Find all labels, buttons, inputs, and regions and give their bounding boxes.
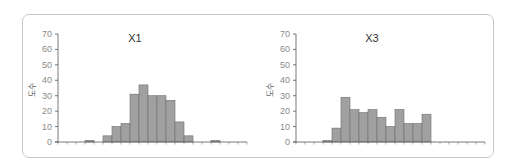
histogram-bar — [166, 100, 175, 142]
histogram-bar — [377, 117, 386, 142]
histogram-x3: X3도수010203040506070 — [266, 29, 485, 147]
histogram-bar — [422, 114, 431, 142]
histogram-bar — [112, 127, 121, 142]
histogram-bar — [103, 136, 112, 142]
histogram-x1: X1도수010203040506070 — [28, 29, 247, 147]
y-tick-label: 20 — [280, 106, 290, 116]
histogram-bar — [341, 97, 350, 142]
y-tick-label: 60 — [280, 44, 290, 54]
y-tick-label: 50 — [42, 60, 52, 70]
histogram-bar — [368, 110, 377, 142]
chart-title: X1 — [128, 32, 141, 44]
y-axis-label: 도수 — [28, 83, 37, 97]
y-tick-label: 0 — [285, 137, 290, 147]
y-tick-label: 60 — [42, 44, 52, 54]
histogram-bar — [175, 122, 184, 142]
histogram-bar — [184, 136, 193, 142]
histogram-bar — [121, 123, 130, 142]
y-tick-label: 50 — [280, 60, 290, 70]
y-tick-label: 20 — [42, 106, 52, 116]
y-tick-label: 40 — [42, 75, 52, 85]
histogram-bar — [139, 85, 148, 142]
histogram-bar — [148, 96, 157, 142]
histogram-bar — [404, 123, 413, 142]
y-tick-label: 30 — [42, 91, 52, 101]
histogram-bar — [350, 110, 359, 142]
histogram-bar — [386, 127, 395, 142]
y-axis-label: 도수 — [266, 83, 275, 97]
chart-title: X3 — [365, 32, 378, 44]
y-tick-label: 10 — [42, 122, 52, 132]
y-tick-label: 10 — [280, 122, 290, 132]
histogram-bar — [157, 96, 166, 142]
y-tick-label: 70 — [280, 29, 290, 39]
histogram-bar — [332, 128, 341, 142]
histogram-canvas: X1도수010203040506070X3도수010203040506070 — [0, 0, 510, 166]
y-tick-label: 30 — [280, 91, 290, 101]
histogram-bar — [395, 110, 404, 142]
y-tick-label: 40 — [280, 75, 290, 85]
y-tick-label: 70 — [42, 29, 52, 39]
histogram-bar — [130, 94, 139, 142]
histogram-bar — [359, 113, 368, 142]
y-tick-label: 0 — [47, 137, 52, 147]
histogram-bar — [413, 123, 422, 142]
